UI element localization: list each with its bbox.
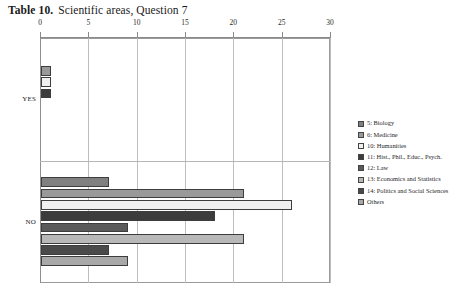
bar bbox=[41, 211, 215, 221]
legend-label: 11: Hist., Phil., Educ., Psych. bbox=[367, 154, 442, 160]
gridline bbox=[330, 38, 331, 283]
legend-item: 11: Hist., Phil., Educ., Psych. bbox=[358, 152, 470, 163]
legend-item: 13: Economics and Statistics bbox=[358, 174, 470, 185]
category-label-no: NO bbox=[25, 218, 36, 226]
bar bbox=[41, 223, 128, 233]
legend-swatch-icon bbox=[358, 143, 364, 149]
x-tick-label: 5 bbox=[86, 18, 90, 27]
x-tick-label: 15 bbox=[181, 18, 189, 27]
legend-label: Others bbox=[367, 199, 384, 205]
group-divider bbox=[40, 161, 330, 162]
bar bbox=[41, 89, 51, 99]
category-label-yes: YES bbox=[22, 95, 36, 103]
title-table-label: Table 10. bbox=[8, 4, 53, 16]
bar bbox=[41, 245, 109, 255]
legend-swatch-icon bbox=[358, 177, 364, 183]
x-tick-label: 25 bbox=[278, 18, 286, 27]
legend-swatch-icon bbox=[358, 165, 364, 171]
bar bbox=[41, 77, 51, 87]
title-text: Scientific areas, Question 7 bbox=[58, 4, 187, 16]
legend-swatch-icon bbox=[358, 188, 364, 194]
bar bbox=[41, 234, 244, 244]
legend-item: 6: Medicine bbox=[358, 129, 470, 140]
legend-item: Others bbox=[358, 196, 470, 207]
legend-swatch-icon bbox=[358, 121, 364, 127]
bar bbox=[41, 177, 109, 187]
legend-label: 12: Law bbox=[367, 165, 388, 171]
x-tick-label: 10 bbox=[133, 18, 141, 27]
x-tick-label: 0 bbox=[38, 18, 42, 27]
legend-item: 14: Politics and Social Sciences bbox=[358, 185, 470, 196]
bar bbox=[41, 66, 51, 76]
legend-swatch-icon bbox=[358, 199, 364, 205]
x-tick-label: 20 bbox=[230, 18, 238, 27]
legend-label: 14: Politics and Social Sciences bbox=[367, 188, 448, 194]
legend-item: 5: Biology bbox=[358, 118, 470, 129]
legend-item: 10: Humanities bbox=[358, 140, 470, 151]
legend-swatch-icon bbox=[358, 132, 364, 138]
legend-label: 10: Humanities bbox=[367, 143, 406, 149]
x-axis: 051015202530 bbox=[40, 30, 330, 38]
bar bbox=[41, 256, 128, 266]
legend-label: 6: Medicine bbox=[367, 132, 398, 138]
plot-area bbox=[40, 38, 330, 283]
legend-swatch-icon bbox=[358, 154, 364, 160]
legend-item: 12: Law bbox=[358, 163, 470, 174]
legend: 5: Biology6: Medicine10: Humanities11: H… bbox=[358, 118, 470, 208]
legend-label: 5: Biology bbox=[367, 120, 394, 126]
legend-label: 13: Economics and Statistics bbox=[367, 176, 441, 182]
bar bbox=[41, 189, 244, 199]
bar bbox=[41, 200, 292, 210]
chart-page: Table 10.Scientific areas, Question 7 05… bbox=[0, 0, 475, 296]
x-tick-label: 30 bbox=[326, 18, 334, 27]
page-title: Table 10.Scientific areas, Question 7 bbox=[8, 4, 187, 16]
